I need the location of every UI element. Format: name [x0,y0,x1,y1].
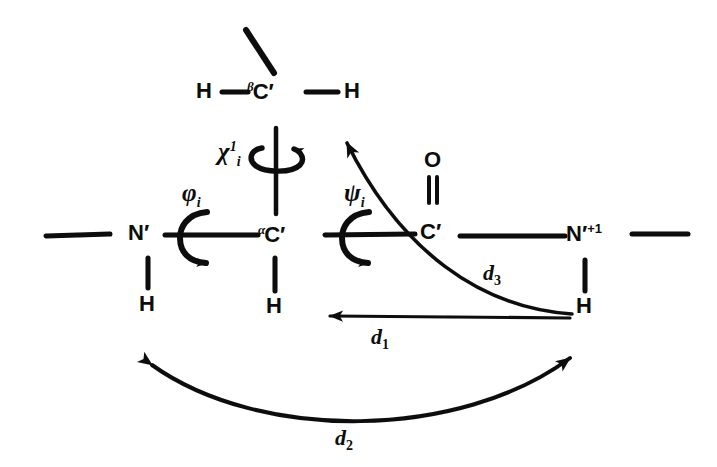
atom-label-nitrogen-i-plus-1: N′+1 [566,222,602,245]
d3-arrow [347,143,572,314]
torsion-label-psi: ψi [344,180,365,210]
atom-label-nitrogen-i-h: H [139,293,155,315]
bond-calpha-to-ccarbonyl [325,234,415,235]
bond-left-terminal [46,234,110,236]
bond-lines-layer [0,0,717,467]
atom-label-alpha-carbon: αC′ [258,223,285,246]
psi-rotation-arrow [342,212,369,263]
peptide-backbone-diagram: H βC′ H χ1i φi ψi N′ αC′ C′ O N′+1 H H H [0,0,717,467]
distance-label-d1: d1 [371,326,389,352]
bond-cbeta-sidechain [246,30,274,73]
atom-label-nitrogen-i-plus-1-h: H [576,295,592,317]
atom-label-beta-h-left: H [196,80,212,102]
distance-label-d2: d2 [335,427,353,453]
torsion-label-chi: χ1i [218,139,241,169]
atom-label-nitrogen-i: N′ [128,222,149,244]
atom-label-beta-carbon: βC′ [247,80,274,103]
atom-label-alpha-h: H [266,295,282,317]
atom-label-carbonyl-oxygen: O [424,149,441,171]
d2-arrow [152,358,570,421]
d1-arrow [330,316,570,318]
atom-label-beta-h-right: H [344,80,360,102]
torsion-label-phi: φi [182,180,201,210]
atom-label-carbonyl-carbon: C′ [420,221,441,243]
distance-label-d3: d3 [483,262,501,288]
